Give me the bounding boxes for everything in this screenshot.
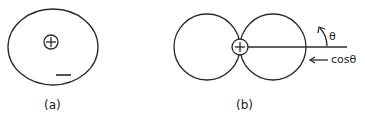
panel-a-label: (a) <box>44 98 61 112</box>
panel-b <box>174 14 347 80</box>
left-lobe-circle <box>174 14 240 80</box>
outer-ellipse <box>8 9 98 85</box>
panel-a <box>8 9 98 85</box>
panel-b-label: (b) <box>236 98 253 112</box>
theta-label: θ <box>329 30 336 43</box>
theta-arc-icon <box>320 28 327 46</box>
cos-theta-label: cosθ <box>331 53 356 66</box>
